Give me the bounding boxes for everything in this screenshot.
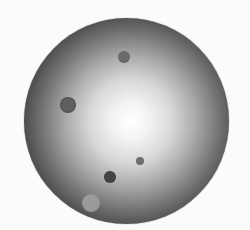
small-right-spot [136, 157, 144, 165]
sphere-disc [24, 18, 229, 224]
light-spot [82, 194, 100, 212]
left-ring-spot [60, 97, 76, 113]
top-spot [118, 51, 130, 63]
dark-ring-spot [104, 171, 116, 183]
